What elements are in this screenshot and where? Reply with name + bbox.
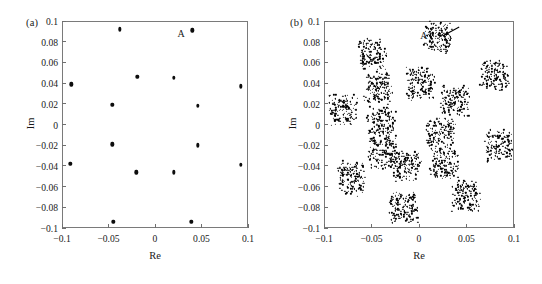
y-axis-tick-label: 0.04 xyxy=(303,78,320,89)
y-axis-tick xyxy=(62,62,66,63)
y-axis-tick xyxy=(62,228,66,229)
y-axis-tick-label: −0.04 xyxy=(298,160,320,171)
x-axis-tick-label: 0.05 xyxy=(193,233,210,244)
annotation-label-A: A xyxy=(177,28,184,39)
x-axis-tick xyxy=(466,224,467,228)
x-axis-tick-label: −0.1 xyxy=(53,233,70,244)
y-axis-tick-label: −0.02 xyxy=(36,140,58,151)
y-axis-title: Im xyxy=(287,103,298,143)
y-axis-tick-label: −0.1 xyxy=(41,223,58,234)
x-axis-tick xyxy=(155,224,156,228)
panel-b-label: (b) xyxy=(290,17,303,28)
y-axis-tick-label: −0.08 xyxy=(298,202,320,213)
y-axis-tick xyxy=(324,207,328,208)
x-axis-tick-label: −0.05 xyxy=(360,233,382,244)
x-axis-tick xyxy=(108,224,109,228)
y-axis-tick xyxy=(62,41,66,42)
x-axis-tick-label: 0 xyxy=(417,233,422,244)
x-axis-tick-label: −0.1 xyxy=(315,233,332,244)
panel-b: (b) −0.1−0.08−0.06−0.04−0.0200.020.040.0… xyxy=(265,0,542,284)
y-axis-title: Im xyxy=(25,103,36,143)
y-axis-tick xyxy=(324,62,328,63)
y-axis-tick-label: 0.06 xyxy=(41,57,58,68)
y-axis-tick xyxy=(324,124,328,125)
x-axis-tick xyxy=(419,224,420,228)
x-axis-title: Re xyxy=(149,250,161,261)
x-axis-tick-label: 0.1 xyxy=(242,233,254,244)
x-axis-tick xyxy=(514,224,515,228)
y-axis-tick-label: 0 xyxy=(53,119,58,130)
panel-a-plot-frame xyxy=(62,21,248,228)
x-axis-tick xyxy=(324,224,325,228)
panel-a-label: (a) xyxy=(26,17,38,28)
panel-b-plot-frame xyxy=(324,21,514,228)
y-axis-tick xyxy=(324,83,328,84)
y-axis-tick xyxy=(62,83,66,84)
y-axis-tick-label: −0.06 xyxy=(298,181,320,192)
y-axis-tick xyxy=(324,186,328,187)
y-axis-tick xyxy=(62,186,66,187)
y-axis-tick-label: 0.04 xyxy=(41,78,58,89)
y-axis-tick-label: 0.08 xyxy=(41,36,58,47)
y-axis-tick xyxy=(62,145,66,146)
y-axis-tick-label: 0 xyxy=(315,119,320,130)
y-axis-tick-label: −0.08 xyxy=(36,202,58,213)
y-axis-tick-label: −0.1 xyxy=(303,223,320,234)
y-axis-tick xyxy=(324,21,328,22)
y-axis-tick xyxy=(62,21,66,22)
x-axis-tick-label: 0 xyxy=(153,233,158,244)
y-axis-tick-label: −0.02 xyxy=(298,140,320,151)
y-axis-tick-label: 0.06 xyxy=(303,57,320,68)
y-axis-tick xyxy=(324,165,328,166)
y-axis-tick xyxy=(324,228,328,229)
y-axis-tick xyxy=(62,103,66,104)
x-axis-tick-label: 0.05 xyxy=(458,233,475,244)
panel-a: (a) −0.1−0.08−0.06−0.04−0.0200.020.040.0… xyxy=(0,0,271,284)
x-axis-tick xyxy=(248,224,249,228)
y-axis-tick xyxy=(324,145,328,146)
x-axis-tick xyxy=(62,224,63,228)
y-axis-tick-label: 0.08 xyxy=(303,36,320,47)
annotation-label-A: A xyxy=(420,30,427,41)
figure-root: (a) −0.1−0.08−0.06−0.04−0.0200.020.040.0… xyxy=(0,0,542,284)
annotation-arrow xyxy=(438,21,465,41)
y-axis-tick-label: 0.1 xyxy=(308,16,320,27)
y-axis-tick xyxy=(324,41,328,42)
y-axis-tick xyxy=(324,103,328,104)
y-axis-tick-label: −0.06 xyxy=(36,181,58,192)
y-axis-tick xyxy=(62,207,66,208)
y-axis-tick-label: −0.04 xyxy=(36,160,58,171)
x-axis-tick xyxy=(371,224,372,228)
y-axis-tick-label: 0.02 xyxy=(303,98,320,109)
x-axis-tick-label: 0.1 xyxy=(508,233,520,244)
y-axis-tick-label: 0.1 xyxy=(46,16,58,27)
y-axis-tick xyxy=(62,165,66,166)
x-axis-title: Re xyxy=(413,250,425,261)
y-axis-tick xyxy=(62,124,66,125)
x-axis-tick xyxy=(201,224,202,228)
y-axis-tick-label: 0.02 xyxy=(41,98,58,109)
x-axis-tick-label: −0.05 xyxy=(97,233,119,244)
